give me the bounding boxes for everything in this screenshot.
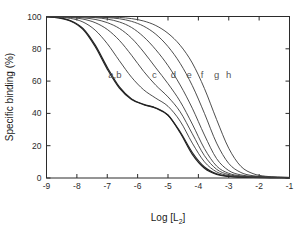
- y-tick-label: 40: [32, 108, 42, 118]
- x-tick-label: -1: [286, 181, 294, 191]
- curve-label-g: g: [214, 69, 219, 80]
- chart-figure: -9-8-7-6-5-4-3-2-1020406080100 a,bcdefgh…: [0, 0, 302, 228]
- x-tick-label: -2: [255, 181, 263, 191]
- chart-svg: -9-8-7-6-5-4-3-2-1020406080100 a,bcdefgh…: [0, 0, 302, 228]
- y-tick-label: 80: [32, 44, 42, 54]
- y-axis-label: Specific binding (%): [4, 53, 15, 141]
- curve-label-d: d: [171, 69, 176, 80]
- curve-label-e: e: [187, 69, 192, 80]
- curve-label-h: h: [226, 69, 231, 80]
- chart-background: [0, 0, 302, 228]
- curve-label-c: c: [152, 69, 157, 80]
- x-axis-label-tail: ]: [182, 212, 185, 223]
- x-tick-label: -6: [134, 181, 142, 191]
- x-tick-label: -7: [103, 181, 111, 191]
- curve-label-ab: a,b: [108, 69, 121, 80]
- curve-label-f: f: [201, 69, 204, 80]
- x-tick-label: -5: [164, 181, 172, 191]
- x-axis-label-main: Log [L: [151, 212, 179, 223]
- y-tick-label: 60: [32, 76, 42, 86]
- x-tick-label: -8: [73, 181, 81, 191]
- x-tick-label: -4: [195, 181, 203, 191]
- y-tick-label: 0: [37, 173, 42, 183]
- x-tick-label: -3: [225, 181, 233, 191]
- y-tick-label: 20: [32, 141, 42, 151]
- x-tick-label: -9: [43, 181, 51, 191]
- y-tick-label: 100: [27, 12, 41, 22]
